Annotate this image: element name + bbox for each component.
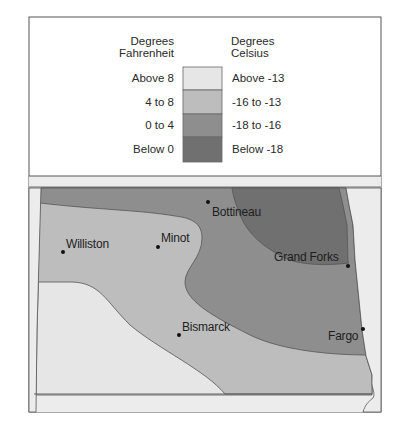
legend-celsius-label: Above -13 xyxy=(232,72,284,84)
legend-fahrenheit-label: 0 to 4 xyxy=(100,119,174,131)
legend-celsius-label: -18 to -16 xyxy=(232,119,281,131)
legend-celsius-title: Degrees Celsius xyxy=(231,35,311,59)
city-dot-icon xyxy=(346,264,350,268)
city-dot-icon xyxy=(177,333,181,337)
city-label-grand-forks: Grand Forks xyxy=(274,250,339,264)
legend-fahrenheit-label: Above 8 xyxy=(100,72,174,84)
city-dot-icon xyxy=(156,245,160,249)
city-label-bottineau: Bottineau xyxy=(212,205,261,219)
temperature-map-figure: Degrees Fahrenheit Degrees Celsius Above… xyxy=(0,0,402,437)
legend-celsius-label: -16 to -13 xyxy=(232,96,281,108)
city-dot-icon xyxy=(206,200,210,204)
city-label-minot: Minot xyxy=(161,231,189,245)
legend-fahrenheit-title-line1: Degrees xyxy=(100,35,174,47)
legend-celsius-title-line2: Celsius xyxy=(231,47,311,59)
city-label-fargo: Fargo xyxy=(328,329,358,343)
city-dot-icon xyxy=(361,327,365,331)
city-label-williston: Williston xyxy=(66,237,109,251)
legend-fahrenheit-title-line2: Fahrenheit xyxy=(100,47,174,59)
legend-fahrenheit-title: Degrees Fahrenheit xyxy=(100,35,174,59)
legend-celsius-label: Below -18 xyxy=(232,143,283,155)
legend-fahrenheit-label: Below 0 xyxy=(100,143,174,155)
city-label-bismarck: Bismarck xyxy=(182,320,230,334)
city-dot-icon xyxy=(61,250,65,254)
map-graphic xyxy=(0,0,402,437)
legend-fahrenheit-label: 4 to 8 xyxy=(100,96,174,108)
legend-celsius-title-line1: Degrees xyxy=(231,35,311,47)
